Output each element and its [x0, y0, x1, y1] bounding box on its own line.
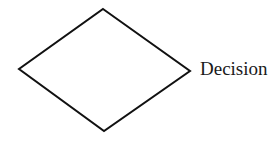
decision-label: Decision: [200, 58, 268, 80]
